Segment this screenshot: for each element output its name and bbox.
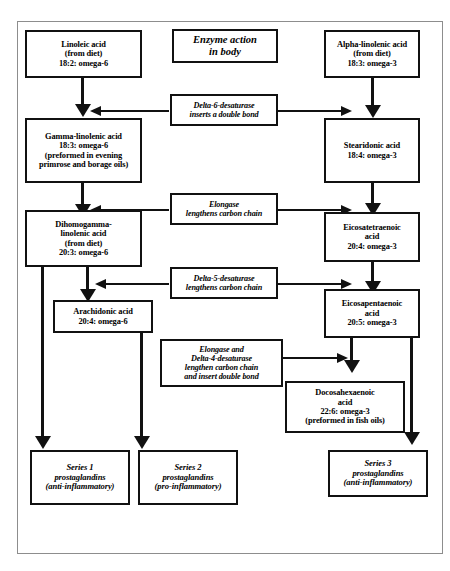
arrowhead-delta5-right	[341, 279, 352, 289]
node-docosahexaenoic-acid: Docosahexaenoic acid 22:6: omega-3 (pref…	[285, 381, 405, 433]
node-series-3-prostaglandins: Series 3 prostaglandins (anti-inflammato…	[328, 450, 428, 497]
delta-6-desaturase-text: Delta-6-desaturase inserts a double bond	[172, 101, 276, 119]
arrowhead-aa-to-series2	[134, 436, 150, 449]
diagram-canvas: Enzyme action in body Linoleic acid (fro…	[0, 0, 450, 571]
connector-delta5-right	[277, 283, 342, 285]
connector-elongase-delta4-right	[283, 357, 338, 359]
node-enzyme-action-title: Enzyme action in body	[172, 29, 278, 63]
connector-aa-to-series2	[140, 333, 143, 440]
connector-delta6-left	[100, 110, 169, 112]
node-arachidonic-acid: Arachidonic acid 20:4: omega-6	[53, 300, 153, 333]
series-3-text: Series 3 prostaglandins (anti-inflammato…	[330, 459, 426, 488]
arrowhead-linoleic-to-gla	[75, 104, 91, 117]
node-dihomogamma-linolenic-acid: Dihomogamma- linolenic acid (from diet) …	[25, 210, 142, 267]
node-elongase-delta-4-desaturase: Elongase and Delta-4-desaturase lengthen…	[160, 339, 283, 387]
elongase-delta-4-desaturase-text: Elongase and Delta-4-desaturase lengthen…	[162, 345, 281, 382]
node-series-1-prostaglandins: Series 1 prostaglandins (anti-inflammato…	[30, 450, 130, 505]
arrowhead-epa-to-dha	[344, 360, 360, 373]
connector-epa-to-series3	[410, 338, 413, 436]
alpha-linolenic-acid-text: Alpha-linolenic acid (from diet) 18:3: o…	[326, 40, 418, 68]
dihomogamma-linolenic-acid-text: Dihomogamma- linolenic acid (from diet) …	[27, 220, 140, 258]
node-eicosatetraenoic-acid: Eicosatetraenoic acid 20:4: omega-3	[324, 212, 420, 262]
connector-linoleic-to-gla	[81, 78, 84, 107]
node-series-2-prostaglandins: Series 2 prostaglandins (pro-inflammator…	[138, 450, 238, 505]
connector-ala-to-stearidonic	[371, 78, 374, 108]
connector-dgla-to-series1	[41, 267, 44, 440]
gamma-linolenic-acid-text: Gamma-linolenic acid 18:3: omega-6 (pref…	[27, 132, 140, 170]
elongase-text: Elongase lengthens carbon chain	[172, 200, 276, 218]
node-stearidonic-acid: Stearidonic acid 18:4: omega-3	[324, 118, 420, 183]
arrowhead-delta6-left	[90, 106, 101, 116]
node-delta-6-desaturase: Delta-6-desaturase inserts a double bond	[170, 94, 278, 126]
connector-elongase-right	[277, 209, 342, 211]
arachidonic-acid-text: Arachidonic acid 20:4: omega-6	[55, 307, 151, 326]
arrowhead-dgla-to-series1	[35, 436, 51, 449]
node-eicosapentaenoic-acid: Eicosapentaenoic acid 20:5: omega-3	[324, 289, 420, 338]
series-2-text: Series 2 prostaglandins (pro-inflammator…	[140, 463, 236, 492]
node-elongase: Elongase lengthens carbon chain	[170, 193, 278, 225]
arrowhead-ala-to-stearidonic	[365, 105, 381, 118]
eicosapentaenoic-acid-text: Eicosapentaenoic acid 20:5: omega-3	[326, 299, 418, 327]
connector-delta5-left	[105, 283, 169, 285]
node-alpha-linolenic-acid: Alpha-linolenic acid (from diet) 18:3: o…	[324, 30, 420, 78]
arrowhead-delta6-right	[341, 106, 352, 116]
node-gamma-linolenic-acid: Gamma-linolenic acid 18:3: omega-6 (pref…	[25, 118, 142, 183]
node-delta-5-desaturase: Delta-5-desaturase lengthens carbon chai…	[170, 267, 278, 299]
enzyme-action-title-text: Enzyme action in body	[174, 34, 276, 58]
delta-5-desaturase-text: Delta-5-desaturase lengthens carbon chai…	[172, 274, 276, 292]
series-1-text: Series 1 prostaglandins (anti-inflammato…	[32, 463, 128, 492]
stearidonic-acid-text: Stearidonic acid 18:4: omega-3	[326, 141, 418, 160]
eicosatetraenoic-acid-text: Eicosatetraenoic acid 20:4: omega-3	[326, 223, 418, 251]
arrowhead-delta5-left	[95, 279, 106, 289]
docosahexaenoic-acid-text: Docosahexaenoic acid 22:6: omega-3 (pref…	[287, 388, 403, 426]
connector-delta6-right	[277, 110, 342, 112]
node-linoleic-acid: Linoleic acid (from diet) 18:2: omega-6	[25, 30, 142, 78]
linoleic-acid-text: Linoleic acid (from diet) 18:2: omega-6	[27, 40, 140, 68]
arrowhead-epa-to-series3	[404, 432, 420, 445]
